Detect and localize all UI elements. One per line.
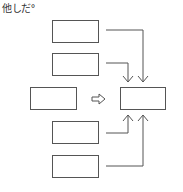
hollow-arrow-right-icon <box>92 94 105 104</box>
connector-lines <box>0 0 183 192</box>
edge-bottom-1 <box>106 115 128 133</box>
edge-top-1 <box>106 30 143 82</box>
edge-top-2 <box>106 63 128 82</box>
edge-bottom-2 <box>106 115 143 166</box>
